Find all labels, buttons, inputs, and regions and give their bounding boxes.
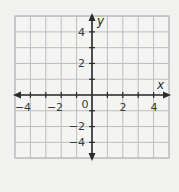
y-tick-label: −4 (69, 136, 85, 149)
x-tick-label: −4 (15, 101, 31, 114)
origin-label: 0 (82, 98, 89, 111)
coordinate-plane: y x −4 −2 0 2 4 4 2 −2 −4 (0, 0, 179, 192)
y-axis-label: y (96, 14, 105, 28)
y-tick-label: 4 (78, 26, 85, 39)
x-tick-label: 4 (151, 101, 158, 114)
x-tick-label: −2 (47, 101, 63, 114)
y-tick-label: 2 (78, 57, 85, 70)
x-axis-label: x (156, 78, 165, 92)
y-tick-label: −2 (69, 120, 85, 133)
x-tick-label: 2 (120, 101, 127, 114)
